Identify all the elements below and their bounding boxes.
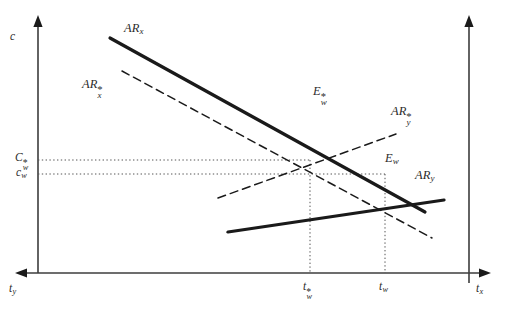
curve-label-ar-y: ARy (415, 169, 434, 183)
curves-group (110, 38, 444, 238)
point-label-e-w: Ew (385, 152, 399, 166)
economics-diagram: c ty tx ARx AR*x ARy AR*y E*w Ew C*w cw … (0, 0, 506, 314)
horizontal-axis-right-arrowhead (479, 268, 491, 277)
horizontal-axis-left-arrowhead (15, 268, 27, 277)
curve-label-ar-y-star: AR*y (391, 105, 406, 118)
diagram-canvas (0, 0, 506, 314)
point-label-e-w-star: E*w (313, 85, 321, 98)
tick-label-tw-star: t*w (303, 281, 306, 293)
axis-label-ty: ty (9, 283, 16, 296)
axes-group (15, 15, 491, 283)
tick-label-cw-star: C*w (15, 152, 23, 164)
axis-label-tx: tx (476, 283, 483, 296)
tick-label-cw: cw (16, 167, 27, 180)
curve-label-ar-x-star: AR*x (82, 78, 97, 91)
axis-label-c: c (10, 31, 15, 43)
vertical-axis-right-arrowhead (464, 15, 473, 27)
vertical-axis-left-arrowhead (33, 15, 42, 27)
curve-ar-y-star (218, 134, 396, 198)
curve-ar-x (110, 38, 425, 212)
tick-label-tw: tw (379, 281, 388, 294)
curve-label-ar-x: ARx (124, 22, 143, 36)
